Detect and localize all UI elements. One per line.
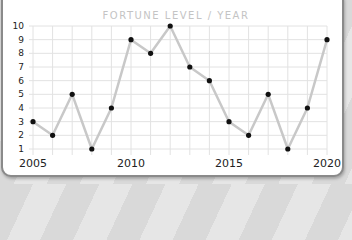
data-point: [266, 92, 271, 97]
data-point: [207, 78, 212, 83]
data-point: [285, 146, 290, 151]
data-point: [226, 119, 231, 124]
y-tick-label: 9: [18, 35, 24, 45]
y-tick-label: 3: [18, 117, 24, 127]
y-tick-label: 8: [18, 48, 24, 58]
y-tick-label: 7: [18, 62, 24, 72]
data-point: [89, 146, 94, 151]
data-point: [70, 92, 75, 97]
data-point: [50, 133, 55, 138]
data-point: [148, 51, 153, 56]
line-chart: 123456789102005201020152020: [0, 0, 352, 184]
x-tick-label: 2015: [215, 157, 243, 170]
y-tick-label: 6: [18, 76, 24, 86]
data-point: [109, 105, 114, 110]
x-tick-label: 2005: [19, 157, 47, 170]
y-tick-label: 4: [18, 103, 24, 113]
y-tick-label: 2: [18, 130, 24, 140]
data-point: [324, 37, 329, 42]
data-line: [33, 26, 327, 149]
x-tick-label: 2010: [117, 157, 145, 170]
x-tick-label: 2020: [313, 157, 341, 170]
data-point: [305, 105, 310, 110]
data-point: [187, 64, 192, 69]
y-tick-label: 5: [18, 89, 24, 99]
data-point: [246, 133, 251, 138]
data-point: [128, 37, 133, 42]
data-point: [30, 119, 35, 124]
y-tick-label: 10: [13, 21, 25, 31]
data-point: [168, 23, 173, 28]
y-tick-label: 1: [18, 144, 24, 154]
